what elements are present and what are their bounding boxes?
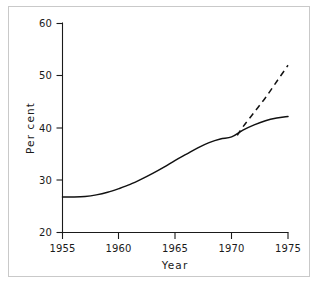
y-axis-title: Per cent bbox=[24, 102, 36, 154]
y-tick-label-60: 60 bbox=[39, 18, 52, 29]
y-tick-label-30: 30 bbox=[39, 175, 52, 186]
x-tick-label-1955: 1955 bbox=[49, 243, 75, 254]
series-line-solid bbox=[63, 117, 289, 198]
y-tick-label-40: 40 bbox=[39, 123, 52, 134]
chart-figure: 60 50 40 30 20 1955 1960 1965 1970 1975 … bbox=[0, 0, 321, 288]
y-tick-label-50: 50 bbox=[39, 70, 52, 81]
series-line-dashed bbox=[237, 65, 288, 135]
x-tick-label-1965: 1965 bbox=[162, 243, 188, 254]
x-tick-label-1970: 1970 bbox=[218, 243, 244, 254]
x-tick-label-1960: 1960 bbox=[105, 243, 131, 254]
x-tick-label-1975: 1975 bbox=[275, 243, 301, 254]
y-axis-ticks bbox=[57, 24, 63, 233]
x-axis-ticks bbox=[63, 233, 289, 240]
y-tick-label-20: 20 bbox=[39, 227, 52, 238]
x-axis-title: Year bbox=[161, 259, 189, 271]
chart-plot-area: 60 50 40 30 20 1955 1960 1965 1970 1975 … bbox=[0, 0, 321, 288]
